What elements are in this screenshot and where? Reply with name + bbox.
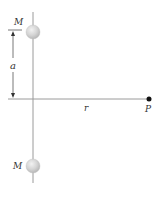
arrowhead-up-icon: [11, 31, 15, 36]
mass-sphere-top: [26, 25, 40, 39]
arrowhead-down-icon: [11, 93, 15, 98]
label-mass-bottom: M: [12, 161, 23, 171]
label-r: r: [84, 103, 89, 113]
point-p-dot: [147, 97, 152, 102]
label-p: P: [144, 104, 152, 114]
mass-sphere-bottom: [26, 159, 40, 173]
label-mass-top: M: [13, 17, 24, 27]
label-a: a: [10, 60, 16, 71]
gravitation-diagram: a M M r P: [0, 0, 163, 201]
